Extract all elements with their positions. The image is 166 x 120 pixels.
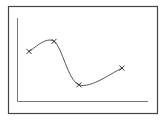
chart-frame xyxy=(9,7,158,114)
line-chart xyxy=(0,0,166,120)
